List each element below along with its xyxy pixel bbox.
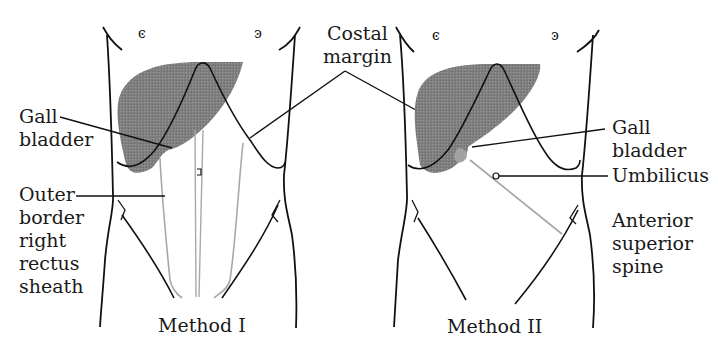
outer-border-label: Outerborderrightrectussheath bbox=[19, 183, 84, 298]
umbilicus-label: Umbilicus bbox=[612, 164, 709, 187]
anterior-superior-spine-label: Anteriorsuperiorspine bbox=[612, 209, 693, 278]
right-nipple-icon: ͽ bbox=[254, 25, 262, 41]
right-groin-line bbox=[515, 210, 578, 304]
left-nipple-icon: ͼ bbox=[138, 25, 146, 41]
gall-bladder-label-method-1: Gallbladder bbox=[19, 105, 93, 151]
right-nipple-icon: ͽ bbox=[551, 27, 559, 43]
liver-shape bbox=[118, 62, 243, 173]
torso-right-outline bbox=[279, 27, 300, 328]
left-nipple-icon: ͼ bbox=[432, 27, 440, 43]
gallbladder-to-asis-line bbox=[470, 160, 562, 234]
torso-right-outline bbox=[577, 30, 599, 328]
method-1-panel: ͼ ͽ bbox=[60, 25, 300, 328]
torso-left-outline bbox=[100, 27, 122, 327]
right-groin-line bbox=[222, 205, 278, 298]
method-2-panel: ͼ ͽ bbox=[394, 27, 608, 328]
left-groin-line bbox=[122, 215, 174, 298]
torso-left-outline bbox=[394, 27, 414, 327]
caption-method-2: Method II bbox=[447, 315, 542, 337]
left-groin-line bbox=[418, 218, 466, 300]
umbilicus-marker bbox=[197, 169, 201, 175]
caption-method-1: Method I bbox=[158, 314, 246, 336]
gall-bladder-label-method-2: Gallbladder bbox=[612, 116, 686, 162]
liver-shape bbox=[415, 64, 541, 173]
costal-margin-label: Costalmargin bbox=[323, 22, 392, 68]
umbilicus-marker bbox=[493, 173, 499, 179]
